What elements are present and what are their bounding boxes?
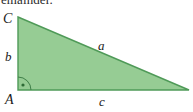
right-triangle-figure: [0, 0, 193, 112]
vertex-label-c: C: [3, 12, 12, 26]
side-label-b: b: [5, 50, 12, 63]
side-label-c: c: [99, 95, 105, 108]
triangle-shape: [18, 17, 189, 90]
vertex-label-a: A: [5, 93, 14, 107]
right-angle-dot-icon: [21, 83, 24, 86]
figure-page: emainder. C A b a c: [0, 0, 193, 112]
side-label-a: a: [98, 39, 105, 52]
